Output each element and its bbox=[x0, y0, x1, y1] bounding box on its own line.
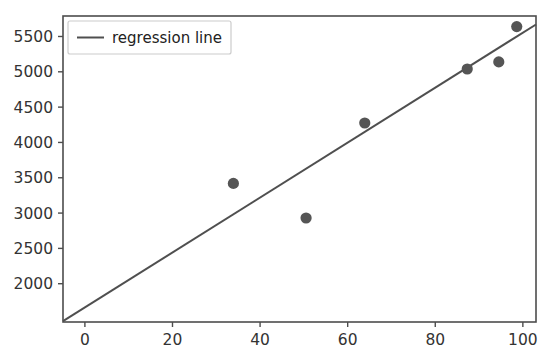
y-tick-label: 4000 bbox=[14, 134, 53, 152]
x-tick-label: 60 bbox=[338, 331, 358, 349]
x-tick-label: 40 bbox=[250, 331, 270, 349]
x-tick-label: 100 bbox=[508, 331, 538, 349]
data-point bbox=[359, 117, 370, 128]
x-tick-label: 20 bbox=[163, 331, 183, 349]
y-tick-label: 5000 bbox=[14, 63, 53, 81]
chart-figure: 020406080100 200025003000350040004500500… bbox=[0, 0, 550, 362]
scatter-plot-regression: 020406080100 200025003000350040004500500… bbox=[0, 0, 550, 362]
y-tick-label: 3000 bbox=[14, 205, 53, 223]
y-tick-label: 2000 bbox=[14, 275, 53, 293]
data-point bbox=[511, 21, 522, 32]
x-tick-label: 0 bbox=[80, 331, 90, 349]
legend[interactable]: regression line bbox=[68, 21, 231, 54]
data-point bbox=[300, 212, 311, 223]
y-axis-ticks: 20002500300035004000450050005500 bbox=[14, 28, 63, 293]
y-tick-label: 5500 bbox=[14, 28, 53, 46]
data-point bbox=[462, 63, 473, 74]
data-point bbox=[493, 56, 504, 67]
y-tick-label: 2500 bbox=[14, 240, 53, 258]
data-point bbox=[228, 178, 239, 189]
x-tick-label: 80 bbox=[425, 331, 445, 349]
legend-label-regression-line: regression line bbox=[112, 29, 222, 47]
x-axis-ticks: 020406080100 bbox=[80, 322, 538, 349]
y-tick-label: 3500 bbox=[14, 169, 53, 187]
y-tick-label: 4500 bbox=[14, 99, 53, 117]
